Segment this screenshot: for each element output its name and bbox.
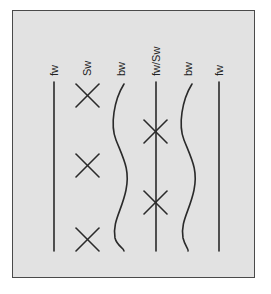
label-fw-2: fw xyxy=(213,65,225,76)
wave-diagram: fw Sw bw fw/Sw bw fw xyxy=(0,0,271,294)
label-bw-2: bw xyxy=(182,62,194,76)
label-sw: Sw xyxy=(81,61,93,76)
bw-wave-2 xyxy=(181,84,195,251)
bw-wave-1 xyxy=(113,84,127,251)
sw-cross-3 xyxy=(76,228,99,251)
label-fw-sw: fw/Sw xyxy=(150,47,162,76)
label-fw-1: fw xyxy=(48,65,60,76)
sw-cross-1 xyxy=(76,84,99,107)
sw-cross-2 xyxy=(76,154,99,177)
label-bw-1: bw xyxy=(115,62,127,76)
